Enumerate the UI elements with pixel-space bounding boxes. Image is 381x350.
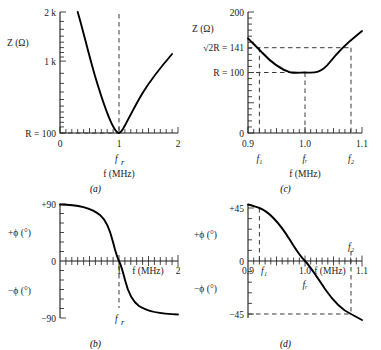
- panel-b-fr-label: f: [115, 314, 119, 324]
- panel-a-fr-label: f: [115, 154, 119, 164]
- panel-c-xtick-11: 1.1: [356, 139, 368, 149]
- panel-c-ytick-200: 200: [230, 8, 245, 18]
- panel-a-ytick-2k: 2 k: [44, 8, 56, 18]
- panel-c-marker-f1: f₁: [256, 154, 262, 164]
- panel-a-ytick-1k: 1 k: [44, 57, 56, 67]
- panel-d-xlabel: f (MHz): [314, 266, 345, 277]
- panel-a-plot: 2 k 1 k R = 100 Z (Ω) 0 1 2 f r f (MHz): [0, 0, 191, 180]
- panel-b-xlabel: f (MHz): [132, 266, 163, 277]
- panel-d-marker-f1: f₁: [261, 266, 267, 276]
- panel-d-ylabel-neg: −ϕ (°): [194, 284, 217, 295]
- panel-d-plot: +45 0 −45 +ϕ (°) −ϕ (°) 0.9 1.0 1.1 f (M…: [190, 196, 381, 346]
- panel-b-ylabel-pos: +ϕ (°): [8, 228, 31, 239]
- panel-d-ylabel-pos: +ϕ (°): [194, 230, 217, 241]
- panel-a-fr-marker: f r: [115, 154, 125, 167]
- panel-c-xtick-10: 1.0: [299, 139, 311, 149]
- panel-a-caption-box: (a): [0, 178, 191, 196]
- panel-a-ylabel: Z (Ω): [7, 38, 29, 49]
- panel-c-ytick-0: 0: [239, 129, 244, 139]
- panel-d-marker-fr: fᵣ: [303, 280, 308, 290]
- panel-c: 200 √2R = 141 R = 100 0 Z (Ω) 0.9 1.0 1.…: [190, 0, 381, 180]
- panel-b-fr-sub: r: [121, 317, 125, 327]
- panel-c-ytick-r: R = 100: [213, 68, 244, 78]
- panel-b-xtick-1: 1: [117, 266, 122, 276]
- panel-c-plot: 200 √2R = 141 R = 100 0 Z (Ω) 0.9 1.0 1.…: [190, 0, 381, 180]
- panel-a-xtick-2: 2: [176, 139, 181, 149]
- panel-c-marker-fr: fᵣ: [303, 154, 308, 164]
- panel-d: +45 0 −45 +ϕ (°) −ϕ (°) 0.9 1.0 1.1 f (M…: [190, 196, 381, 346]
- panel-d-caption: (d): [280, 339, 291, 349]
- panel-b-caption: (b): [90, 339, 101, 349]
- panel-a-curve: [78, 12, 172, 133]
- panel-a-xtick-1: 1: [117, 139, 122, 149]
- panel-b-ylabel-neg: −ϕ (°): [8, 286, 31, 297]
- panel-c-ytick-141: √2R = 141: [203, 43, 244, 53]
- panel-d-caption-box: (d): [190, 333, 381, 350]
- panel-d-marker-f2: f₂: [348, 242, 355, 252]
- panel-c-caption-box: (c): [190, 178, 381, 196]
- panel-d-xtick-09: 0.9: [242, 266, 254, 276]
- panel-d-ytick-0: 0: [239, 257, 244, 267]
- panel-c-xtick-09: 0.9: [242, 139, 254, 149]
- panel-b: +90 0 −90 +ϕ (°) −ϕ (°) 1 2 f (MHz) f r: [0, 196, 191, 346]
- panel-d-xtick-10: 1.0: [299, 266, 311, 276]
- panel-a-fr-sub: r: [121, 157, 125, 167]
- panel-c-ylabel: Z (Ω): [192, 24, 214, 35]
- panel-c-marker-f2: f₂: [348, 154, 355, 164]
- panel-a: 2 k 1 k R = 100 Z (Ω) 0 1 2 f r f (MHz): [0, 0, 191, 180]
- panel-d-ytick-p45: +45: [229, 204, 244, 214]
- panel-b-caption-box: (b): [0, 333, 191, 350]
- panel-b-fr-marker: f r: [115, 314, 125, 327]
- panel-b-ytick-0: 0: [51, 257, 56, 267]
- panel-c-curve: [248, 31, 362, 73]
- panel-a-ytick-r: R = 100: [25, 129, 56, 139]
- panel-b-ytick-m90: −90: [41, 314, 56, 324]
- panel-a-y-ticks: [60, 12, 66, 133]
- panel-d-ytick-m45: −45: [229, 310, 244, 320]
- panel-d-xtick-11: 1.1: [356, 266, 368, 276]
- figure-rlc-resonance: 2 k 1 k R = 100 Z (Ω) 0 1 2 f r f (MHz) …: [0, 0, 381, 350]
- panel-b-xtick-2: 2: [176, 266, 181, 276]
- panel-a-caption: (a): [90, 184, 101, 194]
- panel-a-xtick-0: 0: [58, 139, 63, 149]
- panel-b-plot: +90 0 −90 +ϕ (°) −ϕ (°) 1 2 f (MHz) f r: [0, 196, 191, 346]
- panel-c-caption: (c): [280, 184, 291, 194]
- panel-b-ytick-p90: +90: [41, 200, 56, 210]
